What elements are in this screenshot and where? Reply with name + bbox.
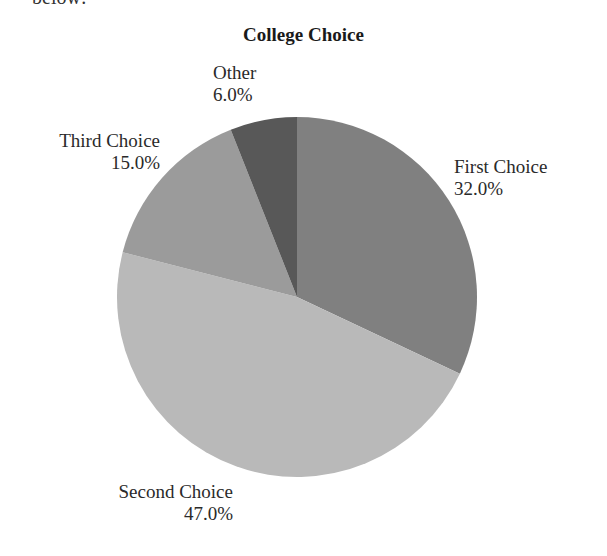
pie-chart (0, 0, 607, 556)
slice-label-value: 15.0% (20, 152, 160, 174)
pie-slices (117, 117, 477, 477)
slice-label-third-choice: Third Choice 15.0% (20, 130, 160, 174)
slice-label-value: 6.0% (213, 84, 256, 106)
slice-label-name: Second Choice (93, 481, 233, 503)
slice-label-first-choice: First Choice 32.0% (454, 156, 547, 200)
slice-label-other: Other 6.0% (213, 62, 256, 106)
slice-label-value: 32.0% (454, 178, 547, 200)
slice-label-name: First Choice (454, 156, 547, 178)
slice-label-second-choice: Second Choice 47.0% (93, 481, 233, 525)
slice-label-value: 47.0% (93, 503, 233, 525)
slice-label-name: Other (213, 62, 256, 84)
slice-label-name: Third Choice (20, 130, 160, 152)
